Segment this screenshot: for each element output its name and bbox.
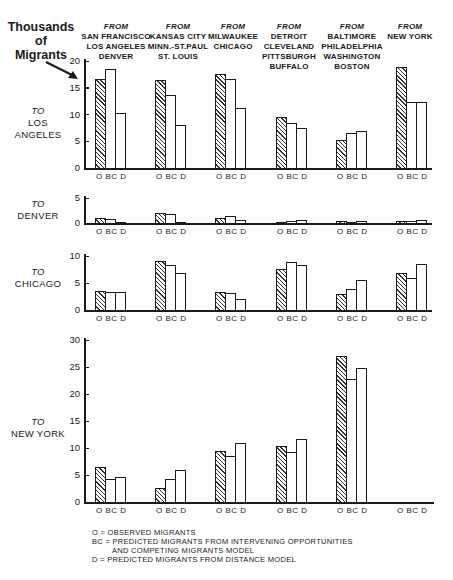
y-tick-mark <box>84 256 89 257</box>
bar-category-labels: O BC D <box>277 506 308 515</box>
y-tick-mark <box>84 448 89 449</box>
bar-d <box>235 443 246 502</box>
y-tick-label: 5 <box>60 278 80 288</box>
bar-category-labels: O BC D <box>96 227 127 236</box>
y-tick-mark <box>84 421 89 422</box>
bar-category-labels: O BC D <box>156 172 187 181</box>
y-tick-label: 0 <box>60 305 80 315</box>
y-tick-label: 10 <box>60 251 80 261</box>
y-tick-mark <box>84 502 89 503</box>
bar-d <box>296 439 307 502</box>
y-tick-label: 0 <box>60 218 80 228</box>
legend: O = OBSERVED MIGRANTS BC = PREDICTED MIG… <box>92 528 353 564</box>
x-axis <box>84 168 432 170</box>
bar-d <box>175 222 186 224</box>
bar-category-labels: O BC D <box>397 314 428 323</box>
y-tick-mark <box>84 310 89 311</box>
y-tick-label: 20 <box>60 56 80 66</box>
y-tick-mark <box>84 283 89 284</box>
bar-d <box>235 220 246 223</box>
y-tick-label: 30 <box>60 335 80 345</box>
legend-item-d: D = PREDICTED MIGRANTS FROM DISTANCE MOD… <box>92 555 353 564</box>
legend-item-o: O = OBSERVED MIGRANTS <box>92 528 353 537</box>
origin-city: NEW YORK <box>370 32 450 42</box>
bar-d <box>416 102 427 168</box>
bar-category-labels: O BC D <box>96 172 127 181</box>
bar-d <box>175 273 186 310</box>
y-tick-mark <box>84 61 89 62</box>
from-label: FROM <box>370 22 450 32</box>
bar-category-labels: O BC D <box>397 227 428 236</box>
bar-category-labels: O BC D <box>277 227 308 236</box>
origin-city: PHILADELPHIA <box>312 42 392 52</box>
y-tick-label: 15 <box>60 416 80 426</box>
bar-d <box>296 128 307 168</box>
to-label: TO <box>0 266 76 278</box>
bar-d <box>115 113 126 168</box>
bar-d <box>296 220 307 223</box>
legend-item-bc-cont: AND COMPETING MIGRANTS MODEL <box>92 546 353 555</box>
bar-d <box>115 477 126 502</box>
bar-d <box>175 470 186 502</box>
origin-header: FROMNEW YORK <box>370 22 450 42</box>
y-label-line: of <box>4 34 78 48</box>
y-tick-label: 5 <box>60 470 80 480</box>
bar-category-labels: O BC D <box>277 314 308 323</box>
y-tick-mark <box>84 114 89 115</box>
x-axis <box>84 310 432 312</box>
bar-category-labels: O BC D <box>216 314 247 323</box>
bar-category-labels: O BC D <box>337 506 368 515</box>
y-tick-label: 0 <box>60 163 80 173</box>
bar-d <box>115 292 126 310</box>
y-tick-mark <box>84 394 89 395</box>
y-tick-mark <box>84 87 89 88</box>
y-tick-mark <box>84 198 89 199</box>
bar-category-labels: O BC D <box>156 506 187 515</box>
origin-city: ST. LOUIS <box>138 52 218 62</box>
bar-d <box>416 264 427 310</box>
y-tick-mark <box>84 340 89 341</box>
bar-category-labels: O BC D <box>337 227 368 236</box>
bar-d <box>356 280 367 310</box>
y-tick-mark <box>84 223 89 224</box>
bar-category-labels: O BC D <box>397 506 428 515</box>
bar-d <box>235 299 246 310</box>
bar-category-labels: O BC D <box>216 227 247 236</box>
bar-d <box>115 222 126 224</box>
y-tick-mark <box>84 367 89 368</box>
bar-category-labels: O BC D <box>337 314 368 323</box>
y-tick-label: 25 <box>60 362 80 372</box>
bar-d <box>175 125 186 168</box>
bar-category-labels: O BC D <box>96 506 127 515</box>
y-tick-label: 10 <box>60 110 80 120</box>
x-axis <box>84 502 434 504</box>
origin-city: BOSTON <box>312 62 392 72</box>
bar-category-labels: O BC D <box>216 172 247 181</box>
y-tick-label: 10 <box>60 443 80 453</box>
y-tick-label: 20 <box>60 389 80 399</box>
y-tick-label: 5 <box>60 136 80 146</box>
bar-category-labels: O BC D <box>156 227 187 236</box>
y-label-line: Thousands <box>4 20 78 34</box>
y-tick-mark <box>84 168 89 169</box>
y-tick-label: 5 <box>60 193 80 203</box>
bar-category-labels: O BC D <box>156 314 187 323</box>
x-axis <box>84 223 432 225</box>
bar-d <box>296 265 307 310</box>
bar-category-labels: O BC D <box>96 314 127 323</box>
y-tick-mark <box>84 475 89 476</box>
y-tick-label: 0 <box>60 497 80 507</box>
destination-city: NEW YORK <box>0 428 76 440</box>
bar-category-labels: O BC D <box>216 506 247 515</box>
y-tick-mark <box>84 141 89 142</box>
bar-category-labels: O BC D <box>277 172 308 181</box>
y-tick-label: 15 <box>60 83 80 93</box>
bar-d <box>356 131 367 168</box>
origin-city: WASHINGTON <box>312 52 392 62</box>
bar-d <box>235 108 246 168</box>
bar-category-labels: O BC D <box>337 172 368 181</box>
legend-item-bc: BC = PREDICTED MIGRANTS FROM INTERVENING… <box>92 537 353 546</box>
bar-category-labels: O BC D <box>397 172 428 181</box>
bar-d <box>356 221 367 223</box>
bar-d <box>356 368 367 502</box>
